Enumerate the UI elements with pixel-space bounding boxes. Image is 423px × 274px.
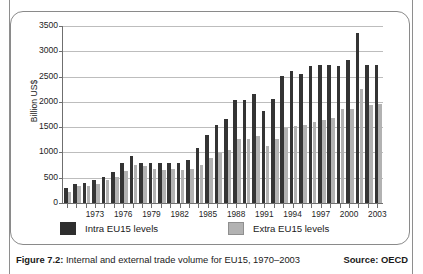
bar-group — [111, 26, 119, 203]
bar-group — [356, 26, 364, 203]
bar-extra — [68, 192, 72, 203]
bar-group — [290, 26, 298, 203]
bar-extra — [303, 125, 307, 203]
bar-group — [337, 26, 345, 203]
x-tick-label: 1985 — [193, 209, 223, 219]
y-tick-label: 500 — [24, 173, 58, 182]
bar-extra — [77, 186, 81, 203]
x-tickmark — [330, 204, 331, 208]
bar-extra — [106, 180, 110, 203]
x-tickmark — [349, 204, 350, 208]
x-tick-label: 2003 — [362, 209, 392, 219]
y-axis-tick-labels: 0500100015002000250030003500 — [24, 0, 58, 274]
legend-label-extra: Extra EU15 levels — [253, 223, 329, 234]
bar-extra — [237, 139, 241, 203]
bar-group — [158, 26, 166, 203]
bar-group — [243, 26, 251, 203]
x-tickmark — [123, 204, 124, 208]
bar-extra — [266, 146, 270, 203]
bar-group — [64, 26, 72, 203]
x-tickmark — [104, 204, 105, 208]
bar-group — [215, 26, 223, 203]
x-tickmark — [321, 204, 322, 208]
y-tickmark — [59, 77, 63, 78]
bar-extra — [96, 184, 100, 203]
figure-caption: Figure 7.2: Internal and external trade … — [16, 254, 300, 265]
x-tickmark — [255, 204, 256, 208]
x-tick-label: 1982 — [165, 209, 195, 219]
bar-extra — [341, 109, 345, 203]
x-tickmark — [217, 204, 218, 208]
x-tickmark — [161, 204, 162, 208]
y-tickmark — [59, 178, 63, 179]
x-tickmark — [236, 204, 237, 208]
x-tickmark — [114, 204, 115, 208]
x-tickmark — [133, 204, 134, 208]
bar-extra — [378, 104, 382, 203]
bar-group — [346, 26, 354, 203]
bar-group — [83, 26, 91, 203]
bar-extra — [350, 109, 354, 203]
bar-group — [139, 26, 147, 203]
bar-extra — [284, 128, 288, 203]
x-tickmark — [293, 204, 294, 208]
x-tickmark — [302, 204, 303, 208]
y-tick-label: 3000 — [24, 46, 58, 55]
bar-group — [224, 26, 232, 203]
bar-extra — [256, 136, 260, 203]
bar-extra — [190, 169, 194, 203]
bar-group — [375, 26, 383, 203]
x-tick-label: 2000 — [334, 209, 364, 219]
bar-extra — [294, 126, 298, 203]
bar-group — [177, 26, 185, 203]
x-tickmark — [170, 204, 171, 208]
x-tick-label: 1976 — [108, 209, 138, 219]
y-tick-label: 2000 — [24, 97, 58, 106]
bar-extra — [275, 139, 279, 203]
legend-swatch-intra-icon — [60, 222, 76, 235]
bar-extra — [115, 177, 119, 203]
bar-extra — [153, 169, 157, 203]
figure-caption-text: Internal and external trade volume for E… — [63, 254, 300, 265]
bar-extra — [218, 153, 222, 203]
bar-group — [196, 26, 204, 203]
x-tick-label: 1979 — [136, 209, 166, 219]
bar-group — [233, 26, 241, 203]
x-tickmark — [151, 204, 152, 208]
bar-group — [130, 26, 138, 203]
bar-extra — [162, 170, 166, 203]
x-tick-label: 1991 — [249, 209, 279, 219]
x-tickmark — [67, 204, 68, 208]
bar-group — [120, 26, 128, 203]
legend-label-intra: Intra EU15 levels — [85, 223, 158, 234]
bar-group — [167, 26, 175, 203]
bar-extra — [209, 158, 213, 203]
bar-group — [327, 26, 335, 203]
legend-swatch-extra-icon — [228, 222, 244, 235]
bar-extra — [360, 89, 364, 203]
x-tickmark — [227, 204, 228, 208]
y-tick-label: 1500 — [24, 122, 58, 131]
x-tickmark — [274, 204, 275, 208]
bar-chart: Billion US$ 0500100015002000250030003500… — [0, 0, 423, 274]
y-tick-label: 1000 — [24, 147, 58, 156]
bar-group — [102, 26, 110, 203]
bar-group — [186, 26, 194, 203]
bar-extra — [322, 120, 326, 203]
x-tick-label: 1994 — [278, 209, 308, 219]
y-tick-label: 0 — [24, 198, 58, 207]
x-tickmark — [340, 204, 341, 208]
x-tick-label: 1988 — [221, 209, 251, 219]
bar-group — [365, 26, 373, 203]
x-tickmark — [86, 204, 87, 208]
bar-group — [149, 26, 157, 203]
x-tickmark — [189, 204, 190, 208]
x-axis-tick-labels: 1973197619791982198519881991199419972000… — [62, 209, 387, 223]
legend-item-intra: Intra EU15 levels — [60, 222, 158, 235]
bar-group — [92, 26, 100, 203]
bar-group — [299, 26, 307, 203]
x-tickmark — [264, 204, 265, 208]
x-tickmark — [142, 204, 143, 208]
bar-group — [73, 26, 81, 203]
bar-group — [205, 26, 213, 203]
